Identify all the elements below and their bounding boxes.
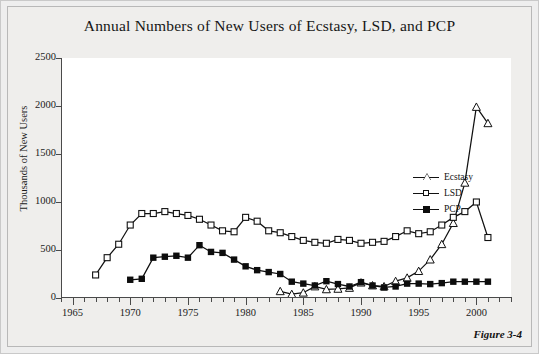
data-point (335, 281, 341, 287)
x-tick-mark-minor (61, 298, 62, 302)
x-tick-mark-minor (326, 298, 327, 302)
x-tick-mark-minor (280, 298, 281, 302)
y-axis-line (61, 58, 62, 298)
data-point (254, 267, 260, 273)
data-point (254, 218, 260, 224)
y-tick-label: 0 (8, 291, 56, 302)
x-tick-mark-minor (315, 298, 316, 302)
data-point (404, 280, 410, 286)
data-point (462, 278, 468, 284)
data-point (299, 289, 307, 296)
data-point (450, 278, 456, 284)
data-point (392, 283, 398, 289)
data-point (104, 255, 110, 261)
data-point (277, 271, 283, 277)
x-tick-mark-minor (257, 298, 258, 302)
data-point (403, 274, 411, 281)
data-point (231, 229, 237, 235)
x-tick-mark-major (419, 298, 420, 305)
series-line (130, 245, 488, 287)
data-point (127, 222, 133, 228)
data-point (219, 250, 225, 256)
data-point (485, 278, 491, 284)
data-point (369, 282, 375, 288)
y-tick-label: 500 (8, 243, 56, 254)
data-point (243, 214, 249, 220)
x-tick-mark-minor (142, 298, 143, 302)
x-tick-mark-minor (499, 298, 500, 302)
data-point (173, 253, 179, 259)
data-point (231, 256, 237, 262)
data-point (139, 276, 145, 282)
data-point (473, 278, 479, 284)
x-tick-mark-minor (442, 298, 443, 302)
data-point (381, 238, 387, 244)
x-tick-mark-minor (269, 298, 270, 302)
y-tick-label: 2000 (8, 99, 56, 110)
x-tick-mark-minor (338, 298, 339, 302)
data-point (289, 278, 295, 284)
data-point (335, 236, 341, 242)
x-tick-mark-minor (153, 298, 154, 302)
legend-item-lsd[interactable]: LSD (413, 185, 473, 201)
chart-legend: Ecstasy LSD PCP (413, 169, 473, 217)
legend-label-ecstasy: Ecstasy (444, 172, 473, 182)
data-point (196, 242, 202, 248)
data-point (381, 284, 387, 290)
data-point (427, 229, 433, 235)
x-tick-label: 1975 (168, 307, 208, 318)
x-tick-mark-major (361, 298, 362, 305)
x-tick-label: 2000 (456, 307, 496, 318)
x-tick-label: 1995 (399, 307, 439, 318)
legend-item-pcp[interactable]: PCP (413, 201, 473, 217)
x-tick-mark-minor (407, 298, 408, 302)
y-tick-mark (56, 202, 61, 203)
data-point (162, 209, 168, 215)
data-point (472, 103, 480, 110)
x-tick-mark-minor (292, 298, 293, 302)
series-pcp (127, 242, 491, 291)
data-point (312, 239, 318, 245)
x-tick-label: 1970 (110, 307, 150, 318)
data-point (276, 287, 284, 294)
y-tick-mark (56, 106, 61, 107)
data-point (208, 249, 214, 255)
data-point (415, 280, 421, 286)
data-point (300, 280, 306, 286)
data-point (196, 216, 202, 222)
y-axis-title: Thousands of New Users (18, 59, 29, 259)
y-tick-mark (56, 250, 61, 251)
data-point (358, 240, 364, 246)
x-tick-label: 1965 (53, 307, 93, 318)
x-tick-mark-minor (211, 298, 212, 302)
x-tick-label: 1980 (226, 307, 266, 318)
data-point (173, 211, 179, 217)
data-point (404, 228, 410, 234)
data-point (427, 281, 433, 287)
x-tick-mark-minor (107, 298, 108, 302)
data-point (265, 269, 271, 275)
data-point (485, 235, 491, 241)
x-tick-mark-minor (453, 298, 454, 302)
data-point (439, 280, 445, 286)
data-point (139, 211, 145, 217)
data-point (346, 283, 352, 289)
x-tick-mark-minor (396, 298, 397, 302)
x-tick-mark-minor (165, 298, 166, 302)
figure-caption: Figure 3-4 (473, 328, 522, 340)
data-point (439, 222, 445, 228)
y-tick-mark (56, 58, 61, 59)
data-point (289, 234, 295, 240)
figure-container: Annual Numbers of New Users of Ecstasy, … (0, 0, 539, 354)
square-open-icon (413, 187, 439, 199)
data-point (266, 228, 272, 234)
x-tick-mark-minor (349, 298, 350, 302)
data-point (346, 237, 352, 243)
data-point (220, 228, 226, 234)
x-tick-mark-minor (384, 298, 385, 302)
x-tick-mark-minor (84, 298, 85, 302)
x-tick-mark-minor (223, 298, 224, 302)
data-point (438, 240, 446, 247)
x-tick-mark-major (130, 298, 131, 305)
legend-item-ecstasy[interactable]: Ecstasy (413, 169, 473, 185)
